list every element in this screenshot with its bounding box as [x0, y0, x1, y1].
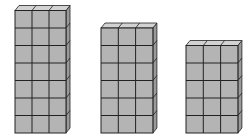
- front-face: [15, 11, 66, 134]
- stack-3: [186, 41, 242, 134]
- cube-stacks-svg: [0, 0, 250, 138]
- side-face: [238, 41, 242, 134]
- front-face: [186, 46, 238, 134]
- top-face: [186, 41, 242, 46]
- side-face: [66, 6, 70, 134]
- cube-stacks-diagram: [0, 0, 250, 138]
- stack-2: [101, 23, 157, 133]
- top-face: [101, 23, 157, 28]
- top-face: [15, 6, 70, 11]
- stack-1: [15, 6, 70, 134]
